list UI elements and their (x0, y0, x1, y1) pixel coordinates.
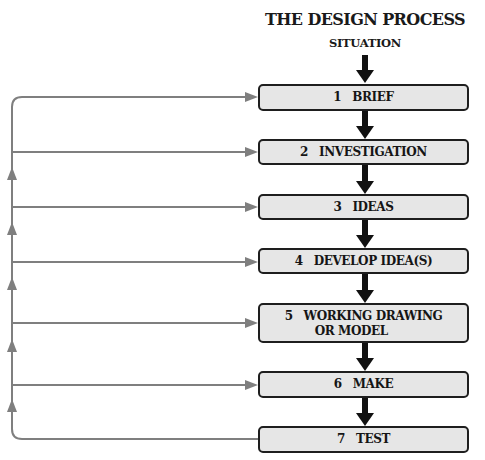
down-arrow-icon (356, 398, 374, 426)
step-label: BRIEF (352, 90, 393, 105)
up-arrow-icon (7, 167, 17, 180)
step-box-test: 7 TEST (258, 426, 469, 453)
right-arrow-icon (245, 202, 258, 212)
up-arrow-icon (7, 277, 17, 290)
step-label: WORKING DRAWING (304, 309, 443, 323)
feedback-arrowheads (7, 92, 258, 412)
step-box-ideas: 3 IDEAS (258, 194, 469, 220)
right-arrow-icon (245, 257, 258, 267)
step-label-line2: OR MODEL (285, 324, 388, 339)
step-number: 5 (285, 309, 293, 323)
step-number: 2 (300, 145, 308, 160)
step-box-working-drawing: 5WORKING DRAWING OR MODEL (258, 303, 469, 343)
step-label: IDEAS (352, 200, 393, 215)
up-arrow-icon (7, 399, 17, 412)
down-arrow-icon (356, 220, 374, 248)
step-label: DEVELOP IDEA(S) (314, 254, 433, 269)
up-arrow-icon (7, 339, 17, 352)
step-box-develop-ideas: 4 DEVELOP IDEA(S) (258, 248, 469, 274)
step-number: 3 (333, 200, 341, 215)
down-arrow-icon (356, 343, 374, 371)
step-number: 1 (333, 90, 341, 105)
down-arrow-icon (356, 165, 374, 194)
right-arrow-icon (245, 92, 258, 102)
step-number: 4 (295, 254, 303, 269)
right-arrow-icon (245, 147, 258, 157)
feedback-loop (12, 97, 258, 439)
step-box-make: 6 MAKE (258, 371, 469, 398)
up-arrow-icon (7, 222, 17, 235)
right-arrow-icon (245, 318, 258, 328)
right-arrow-icon (245, 380, 258, 390)
step-box-brief: 1 BRIEF (258, 84, 469, 111)
step-number: 6 (334, 377, 342, 392)
down-arrow-icon (356, 55, 374, 83)
down-arrow-icon (356, 111, 374, 139)
step-label: TEST (356, 432, 390, 447)
step-label: INVESTIGATION (319, 145, 427, 160)
step-number: 7 (337, 432, 345, 447)
down-arrow-icon (356, 274, 374, 303)
step-label: MAKE (353, 377, 394, 392)
step-box-investigation: 2 INVESTIGATION (258, 139, 469, 165)
